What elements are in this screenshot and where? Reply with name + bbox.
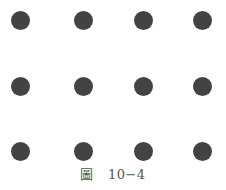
dot bbox=[193, 142, 212, 161]
caption-number: 10−4 bbox=[108, 167, 146, 182]
dot bbox=[134, 77, 153, 96]
caption-prefix: 圖 bbox=[80, 167, 94, 182]
dot bbox=[74, 77, 93, 96]
dot bbox=[11, 11, 30, 30]
dot bbox=[193, 77, 212, 96]
dot bbox=[11, 77, 30, 96]
dot bbox=[193, 11, 212, 30]
dot bbox=[134, 11, 153, 30]
dot bbox=[74, 11, 93, 30]
dot bbox=[11, 142, 30, 161]
dot bbox=[134, 142, 153, 161]
figure-caption: 圖10−4 bbox=[0, 164, 226, 183]
dot bbox=[74, 142, 93, 161]
